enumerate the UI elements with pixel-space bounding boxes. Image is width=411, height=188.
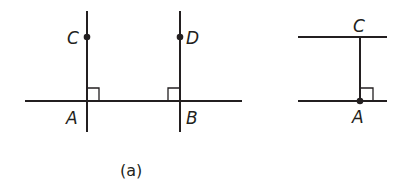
point-a [357, 98, 364, 105]
figure-caption: (a) [120, 161, 142, 180]
label-a: A [351, 107, 364, 127]
label-b: B [186, 108, 198, 128]
figure-b: C A [298, 16, 387, 127]
right-angle-marker-a [87, 88, 99, 101]
point-d [177, 34, 184, 41]
label-d: D [186, 28, 199, 48]
diagram-canvas: C D A B (a) C A [0, 0, 411, 188]
right-angle-marker-b [168, 88, 180, 101]
label-a: A [65, 108, 78, 128]
point-c [84, 34, 91, 41]
figure-a: C D A B (a) [25, 11, 242, 180]
label-c: C [353, 16, 365, 36]
label-c: C [67, 28, 79, 48]
